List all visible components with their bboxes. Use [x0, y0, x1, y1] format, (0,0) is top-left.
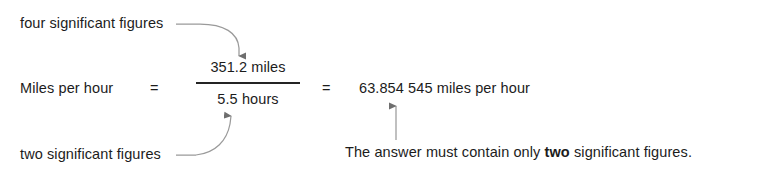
arrow-four-sig-figs-to-numerator: [176, 24, 239, 56]
equals-sign-first: =: [150, 81, 158, 96]
equals-sign-second: =: [322, 81, 330, 96]
equation-left-side-label: Miles per hour: [20, 81, 113, 96]
note-prefix: The answer must contain only: [345, 144, 545, 160]
annotation-label-two-significant-figures: two significant figures: [20, 147, 161, 162]
document-canvas: four significant figures two significant…: [0, 0, 780, 178]
annotation-label-four-significant-figures: four significant figures: [20, 16, 163, 31]
arrow-two-sig-figs-to-denominator: [176, 116, 231, 155]
note-suffix: significant figures.: [570, 144, 692, 160]
closing-note: The answer must contain only two signifi…: [345, 145, 692, 160]
equation-result: 63.854 545 miles per hour: [359, 81, 530, 96]
fraction: 351.2 miles 5.5 hours: [196, 60, 300, 106]
fraction-denominator: 5.5 hours: [196, 84, 300, 107]
fraction-numerator: 351.2 miles: [196, 60, 300, 82]
note-emphasis: two: [545, 144, 570, 160]
